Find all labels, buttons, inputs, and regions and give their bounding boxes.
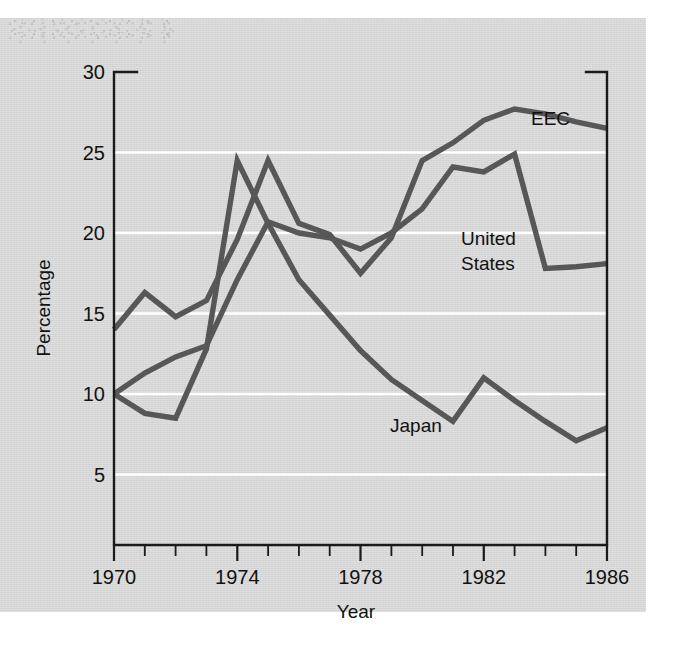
x-tick-label-1982: 1982 <box>462 566 507 588</box>
x-tick-label-1986: 1986 <box>585 566 630 588</box>
y-tick-label-5: 5 <box>94 464 105 486</box>
x-axis-title: Year <box>337 601 376 622</box>
series-label-japan: Japan <box>390 415 442 436</box>
x-tick-label-1974: 1974 <box>215 566 260 588</box>
y-tick-label-25: 25 <box>83 142 105 164</box>
y-tick-label-15: 15 <box>83 303 105 325</box>
series-line-japan <box>114 161 607 441</box>
x-axis-tick-labels: 1970 1974 1978 1982 1986 <box>92 566 630 588</box>
series-group <box>114 109 607 441</box>
y-tick-label-20: 20 <box>83 222 105 244</box>
series-label-eec: EEC <box>531 108 570 129</box>
line-chart: 30 25 20 15 10 5 1970 1974 1978 1982 198… <box>0 18 681 646</box>
y-tick-label-10: 10 <box>83 383 105 405</box>
gridlines <box>114 153 607 475</box>
x-tick-label-1970: 1970 <box>92 566 137 588</box>
series-label-united-states-line2: States <box>461 253 515 274</box>
y-axis-title: Percentage <box>33 259 54 356</box>
series-label-united-states-line1: United <box>461 228 516 249</box>
x-axis-ticks <box>114 545 607 561</box>
x-tick-label-1978: 1978 <box>338 566 383 588</box>
y-axis-tick-labels: 30 25 20 15 10 5 <box>83 61 105 486</box>
y-tick-label-30: 30 <box>83 61 105 83</box>
